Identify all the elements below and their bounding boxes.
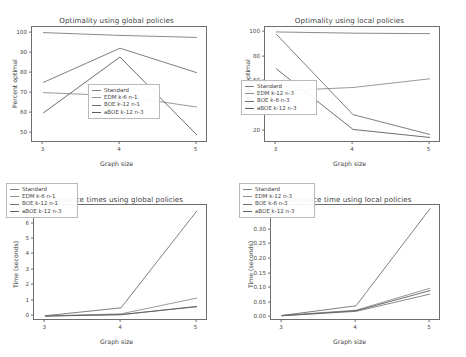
legend-item-aboe[interactable]: aBOE k-12 n-3	[10, 208, 74, 215]
legend-swatch-icon	[92, 97, 101, 98]
x-axis-tick-label: 5	[194, 324, 198, 330]
y-axis-tick-mark	[262, 31, 264, 32]
y-axis-tick-mark	[268, 272, 270, 273]
series-lines	[271, 205, 441, 321]
series-line-boe	[45, 211, 196, 316]
series-line-standard	[276, 32, 429, 34]
x-axis-tick-label: 4	[118, 324, 122, 330]
y-axis-tick-mark	[31, 222, 33, 223]
legend-item-boe[interactable]: BOE k-6 n-3	[243, 201, 311, 208]
legend-item-label: EDM k-12 n-3	[257, 91, 294, 97]
legend-item-label: Standard	[104, 88, 129, 94]
plot-area	[270, 204, 440, 320]
series-line-standard	[43, 33, 196, 38]
figure-grid: Optimality using global policies50607080…	[0, 0, 466, 357]
y-axis-tick-mark	[262, 55, 264, 56]
legend-item-aboe[interactable]: aBOE k-12 n-3	[245, 105, 313, 112]
legend-item-label: Standard	[257, 84, 282, 90]
y-axis-tick-label: 0	[0, 312, 29, 318]
panel-inference-global: Inference times using global policies012…	[0, 180, 233, 357]
y-axis-tick-mark	[31, 299, 33, 300]
x-axis-label: Graph size	[0, 338, 233, 345]
x-axis-tick-mark	[44, 320, 45, 322]
series-line-boe	[43, 48, 196, 82]
x-axis-tick-label: 4	[353, 324, 357, 330]
x-axis-tick-label: 3	[41, 146, 45, 152]
chart-legend: StandardEDM k-6 n-1BOE k-12 n-1aBOE k-12…	[88, 84, 160, 119]
x-axis-tick-mark	[42, 142, 43, 144]
x-axis-label: Graph size	[233, 160, 466, 167]
legend-swatch-icon	[245, 86, 254, 87]
y-axis-tick-label: 6	[0, 220, 29, 226]
y-axis-tick-mark	[29, 32, 31, 33]
y-axis-label: Percent optimal	[11, 59, 18, 108]
y-axis-tick-mark	[29, 52, 31, 53]
y-axis-tick-mark	[31, 253, 33, 254]
y-axis-tick-mark	[268, 287, 270, 288]
x-axis-tick-label: 3	[274, 146, 278, 152]
x-axis-tick-mark	[352, 142, 353, 144]
x-axis-tick-label: 5	[427, 146, 431, 152]
legend-item-label: BOE k-12 n-1	[22, 201, 58, 207]
y-axis-label: Time (seconds)	[12, 241, 19, 288]
legend-swatch-icon	[10, 189, 19, 190]
legend-item-aboe[interactable]: aBOE k-12 n-3	[243, 208, 311, 215]
panel-optimality-local: Optimality using local policies204060801…	[233, 0, 466, 180]
x-axis-tick-label: 4	[117, 146, 121, 152]
legend-swatch-icon	[243, 211, 252, 212]
legend-item-boe[interactable]: BOE k-12 n-1	[10, 201, 74, 208]
legend-swatch-icon	[245, 93, 254, 94]
y-axis-tick-mark	[29, 72, 31, 73]
legend-item-label: BOE k-6 n-3	[257, 98, 290, 104]
x-axis-tick-mark	[195, 320, 196, 322]
x-axis-label: Graph size	[233, 338, 466, 345]
legend-swatch-icon	[245, 101, 254, 102]
y-axis-tick-mark	[29, 112, 31, 113]
y-axis-tick-mark	[31, 315, 33, 316]
legend-item-label: EDM k-6 n-1	[22, 194, 56, 200]
x-axis-tick-mark	[428, 142, 429, 144]
x-axis-tick-label: 5	[427, 324, 431, 330]
legend-item-label: Standard	[255, 187, 280, 193]
y-axis-tick-label: 0.00	[233, 313, 266, 319]
chart-legend: StandardEDM k-12 n-3BOE k-6 n-3aBOE k-12…	[241, 80, 317, 115]
legend-swatch-icon	[10, 211, 19, 212]
y-axis-tick-label: 80	[233, 53, 260, 59]
y-axis-tick-label: 1	[0, 297, 29, 303]
chart-title: Optimality using global policies	[0, 16, 233, 25]
legend-item-label: aBOE k-12 n-3	[255, 209, 295, 215]
x-axis-tick-label: 3	[279, 324, 283, 330]
chart-title: Optimality using local policies	[233, 16, 466, 25]
legend-item-boe[interactable]: BOE k-12 n-1	[92, 102, 156, 109]
y-axis-label: Time (seconds)	[247, 241, 254, 288]
x-axis-tick-mark	[120, 320, 121, 322]
y-axis-tick-mark	[31, 269, 33, 270]
legend-item-label: BOE k-12 n-1	[104, 102, 140, 108]
chart-legend: StandardEDM k-12 n-3BOE k-6 n-3aBOE k-12…	[239, 183, 315, 218]
y-axis-tick-mark	[262, 129, 264, 130]
y-axis-tick-label: 100	[0, 29, 27, 35]
panel-inference-local: Inference time using local policies0.000…	[233, 180, 466, 357]
y-axis-tick-mark	[31, 238, 33, 239]
y-axis-tick-mark	[29, 92, 31, 93]
x-axis-tick-mark	[429, 320, 430, 322]
series-lines	[34, 205, 208, 321]
legend-swatch-icon	[92, 105, 101, 106]
legend-item-boe[interactable]: BOE k-6 n-3	[245, 98, 313, 105]
y-axis-tick-label: 0.30	[233, 226, 266, 232]
x-axis-tick-mark	[119, 142, 120, 144]
y-axis-tick-mark	[268, 301, 270, 302]
x-axis-tick-mark	[275, 142, 276, 144]
y-axis-tick-label: 50	[0, 129, 27, 135]
y-axis-tick-mark	[31, 284, 33, 285]
x-axis-tick-mark	[355, 320, 356, 322]
y-axis-tick-mark	[268, 258, 270, 259]
x-axis-label: Graph size	[0, 160, 233, 167]
y-axis-tick-label: 0.05	[233, 299, 266, 305]
y-axis-tick-mark	[268, 316, 270, 317]
y-axis-tick-mark	[268, 228, 270, 229]
y-axis-tick-label: 60	[0, 109, 27, 115]
legend-swatch-icon	[92, 112, 101, 113]
legend-item-aboe[interactable]: aBOE k-12 n-3	[92, 109, 156, 116]
panel-optimality-global: Optimality using global policies50607080…	[0, 0, 233, 180]
